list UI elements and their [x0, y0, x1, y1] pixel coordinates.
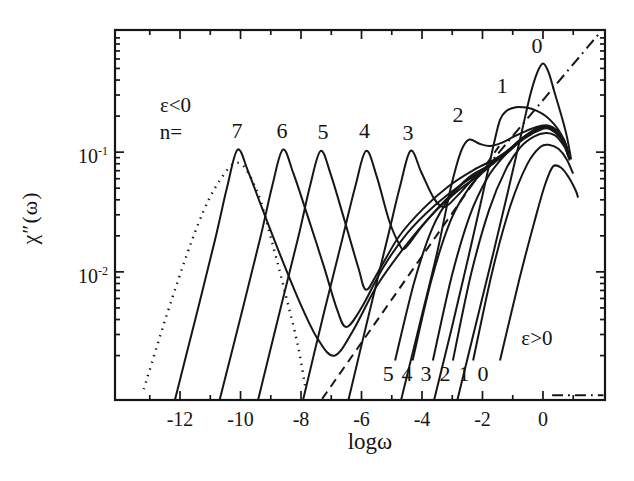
annotation-11-5: 5 [383, 361, 394, 386]
annotation-15-1: 1 [459, 361, 470, 386]
y-tick-exponent: -2 [98, 264, 108, 278]
annotation-7-2: 2 [453, 102, 464, 127]
annotation-10-0: ε>0 [521, 326, 552, 350]
annotation-5-4: 4 [359, 118, 370, 143]
figure-container: -12-10-8-6-4-20ε<0n=76543210ε>0543210 χ″… [0, 0, 634, 481]
y-axis-title: χ″(ω) [17, 158, 43, 278]
x-tick-label-0: 0 [538, 408, 548, 430]
annotation-9-0: 0 [531, 33, 542, 58]
x-tick-label--6: -6 [353, 408, 370, 430]
x-tick-label--8: -8 [293, 408, 310, 430]
y-tick-label-1e-2: 10-2 [62, 261, 108, 286]
annotation-1-n: n= [160, 120, 182, 144]
annotation-8-1: 1 [497, 73, 508, 98]
annotation-12-4: 4 [401, 361, 412, 386]
x-tick-label--2: -2 [474, 408, 491, 430]
susceptibility-spectra-chart: -12-10-8-6-4-20ε<0n=76543210ε>0543210 [0, 0, 634, 481]
y-tick-exponent: -1 [98, 144, 108, 158]
series-eps-neg-n7 [174, 127, 568, 404]
y-tick-label-1e-1: 10-1 [62, 141, 108, 166]
annotation-4-5: 5 [318, 119, 329, 144]
annotation-2-7: 7 [231, 118, 242, 143]
x-tick-label--10: -10 [227, 408, 254, 430]
x-tick-label--4: -4 [414, 408, 431, 430]
annotation-0-0: ε<0 [160, 93, 191, 117]
annotation-16-0: 0 [478, 361, 489, 386]
x-tick-label--12: -12 [167, 408, 194, 430]
annotation-13-3: 3 [420, 361, 431, 386]
x-axis-title: logω [320, 429, 420, 455]
annotation-3-6: 6 [276, 118, 287, 143]
series-eps-neg-n5 [257, 127, 568, 404]
annotation-14-2: 2 [439, 361, 450, 386]
y-tick-base: 10 [78, 265, 98, 287]
annotation-6-3: 3 [403, 120, 414, 145]
y-tick-base: 10 [78, 145, 98, 167]
